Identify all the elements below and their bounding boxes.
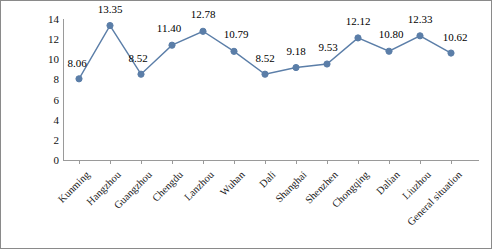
data-point-marker — [231, 48, 237, 54]
data-point-marker — [262, 71, 268, 77]
data-label: 8.52 — [255, 52, 274, 64]
y-tick-label: 2 — [54, 134, 60, 146]
x-tick-label-text: Lanzhou — [182, 169, 216, 203]
x-tick-label-text: Dalian — [374, 169, 402, 197]
data-point-marker — [448, 50, 454, 56]
x-tick-label-wuhan: Wuhan — [218, 169, 247, 198]
data-label: 9.18 — [286, 45, 305, 57]
data-point-marker — [355, 35, 361, 41]
data-point-marker — [138, 71, 144, 77]
data-label: 10.80 — [379, 28, 404, 40]
x-tick-label-general-situation: General situation — [405, 169, 464, 228]
data-point-marker — [293, 64, 299, 70]
x-tick-label-dalian: Dalian — [374, 169, 402, 197]
x-tick-label-text: Wuhan — [218, 169, 247, 198]
data-point-marker — [324, 61, 330, 67]
x-tick-label-chengdu: Chengdu — [150, 169, 185, 204]
data-label: 8.06 — [67, 57, 86, 69]
data-label: 12.12 — [346, 15, 371, 27]
data-label: 11.40 — [157, 22, 181, 34]
data-label: 12.78 — [191, 8, 216, 20]
data-point-marker — [200, 28, 206, 34]
data-label: 10.62 — [443, 31, 468, 43]
data-label: 8.52 — [128, 52, 147, 64]
data-point-marker — [76, 76, 82, 82]
plot-area: 02468101214 8.0613.358.5211.4012.7810.79… — [63, 19, 479, 161]
x-tick-label-dali: Dali — [257, 169, 278, 190]
y-tick-label: 4 — [54, 114, 60, 126]
data-label: 10.79 — [224, 28, 249, 40]
x-tick-label-text: Dali — [257, 169, 278, 190]
y-tick-label: 14 — [48, 13, 59, 25]
y-tick-label: 12 — [48, 33, 59, 45]
data-label: 12.33 — [408, 13, 433, 25]
data-point-marker — [169, 42, 175, 48]
x-tick-label-lanzhou: Lanzhou — [182, 169, 216, 203]
data-label: 9.53 — [318, 41, 337, 53]
y-tick-label: 8 — [54, 73, 60, 85]
y-tick-label: 0 — [54, 154, 60, 166]
x-tick-label-text: Chengdu — [150, 169, 185, 204]
data-point-marker — [417, 33, 423, 39]
y-tick-label: 6 — [54, 94, 60, 106]
data-point-marker — [386, 48, 392, 54]
x-tick-label-text: General situation — [405, 169, 464, 228]
chart-figure: Average monthly income/yuan 02468101214 … — [0, 0, 492, 249]
line-series — [63, 19, 479, 161]
data-label: 13.35 — [98, 3, 123, 15]
y-tick-label: 10 — [48, 53, 59, 65]
data-point-marker — [107, 22, 113, 28]
